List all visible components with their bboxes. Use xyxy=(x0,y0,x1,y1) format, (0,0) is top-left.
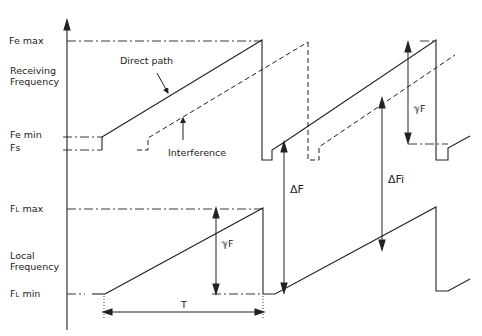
fl-max-label: FL max xyxy=(10,203,43,216)
y-axis-arrow-icon xyxy=(64,20,70,30)
local-waveform xyxy=(105,207,470,294)
direct-path-pointer xyxy=(157,73,168,93)
delta-fi-label: ΔFi xyxy=(388,174,404,185)
gamma-f-top-label: ℽF xyxy=(413,103,425,114)
direct-path-label: Direct path xyxy=(120,55,173,66)
fmcw-timing-diagram: Fe max Receiving Frequency Fe min Fs Dir… xyxy=(0,0,482,336)
fl-min-label: FL min xyxy=(10,288,40,301)
receiving-frequency-label-line1: Receiving xyxy=(10,65,56,76)
delta-f-label: ΔF xyxy=(290,184,304,195)
gamma-f-bottom-label: ℽF xyxy=(221,238,233,249)
receiving-frequency-label-line2: Frequency xyxy=(10,76,59,87)
fe-min-label: Fe min xyxy=(10,129,42,140)
period-t-label: T xyxy=(181,299,187,310)
diagram-canvas xyxy=(0,0,482,336)
interference-label: Interference xyxy=(168,147,226,158)
fe-max-label: Fe max xyxy=(9,35,44,46)
local-frequency-label-line1: Local xyxy=(10,250,35,261)
local-frequency-label-line2: Frequency xyxy=(10,261,59,272)
fs-label: Fs xyxy=(10,142,20,153)
